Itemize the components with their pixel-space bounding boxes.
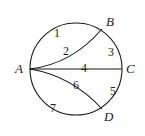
region-label-2: 2 bbox=[63, 44, 69, 58]
point-d-label: D bbox=[103, 109, 114, 124]
point-c-label: C bbox=[126, 61, 135, 76]
region-label-3: 3 bbox=[108, 45, 114, 59]
circle-path-diagram: A B C D 1 2 3 4 5 6 7 bbox=[0, 0, 145, 136]
point-a-label: A bbox=[14, 61, 23, 76]
curve-a-to-d bbox=[30, 69, 102, 109]
region-label-7: 7 bbox=[50, 101, 56, 115]
region-label-6: 6 bbox=[73, 78, 79, 92]
region-label-1: 1 bbox=[54, 26, 60, 40]
region-label-5: 5 bbox=[110, 84, 116, 98]
point-b-label: B bbox=[106, 14, 114, 29]
region-label-4: 4 bbox=[81, 61, 87, 75]
